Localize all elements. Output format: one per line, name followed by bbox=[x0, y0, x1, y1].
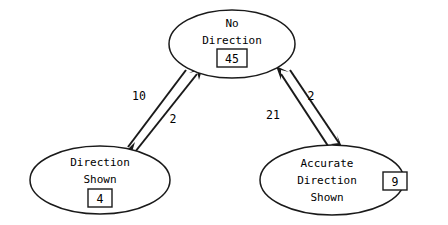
edge-direction-shown-to-no-direction: 2 bbox=[131, 66, 203, 157]
edge-line-21 bbox=[281, 74, 332, 152]
count-value-no-direction: 45 bbox=[225, 52, 239, 66]
node-direction-shown-count-badge: 4 bbox=[88, 189, 112, 207]
node-no-direction-count-badge: 45 bbox=[217, 49, 247, 67]
node-accurate-direction-shown-line2: Direction bbox=[297, 174, 357, 187]
count-value-direction-shown: 4 bbox=[97, 192, 104, 206]
edge-accurate-to-no-direction: 21 bbox=[266, 66, 332, 152]
edge-line-2-left bbox=[131, 74, 197, 157]
node-no-direction[interactable]: No Direction 45 bbox=[169, 10, 295, 78]
node-direction-shown-line2: Shown bbox=[83, 173, 116, 186]
node-no-direction-line1: No bbox=[225, 17, 238, 30]
node-direction-shown-line1: Direction bbox=[70, 156, 130, 169]
diagram-svg: 10 2 21 2 No Direction 45 bbox=[0, 0, 448, 225]
edge-no-direction-to-accurate: 2 bbox=[290, 70, 344, 152]
edge-label-2-left: 2 bbox=[170, 112, 177, 126]
edge-label-10: 10 bbox=[132, 89, 146, 103]
node-accurate-direction-shown-line3: Shown bbox=[310, 191, 343, 204]
node-accurate-direction-shown-count-badge: 9 bbox=[383, 172, 407, 190]
node-direction-shown[interactable]: Direction Shown 4 bbox=[30, 146, 170, 214]
edge-line-2-right bbox=[290, 70, 339, 143]
edge-label-21: 21 bbox=[266, 108, 280, 122]
edge-label-2-right: 2 bbox=[308, 89, 315, 103]
edge-line-10 bbox=[128, 70, 186, 147]
count-value-accurate-direction-shown: 9 bbox=[392, 175, 399, 189]
diagram-canvas: 10 2 21 2 No Direction 45 bbox=[0, 0, 448, 225]
node-accurate-direction-shown[interactable]: Accurate Direction Shown 9 bbox=[260, 145, 407, 215]
node-no-direction-line2: Direction bbox=[202, 34, 262, 47]
node-accurate-direction-shown-line1: Accurate bbox=[301, 157, 354, 170]
